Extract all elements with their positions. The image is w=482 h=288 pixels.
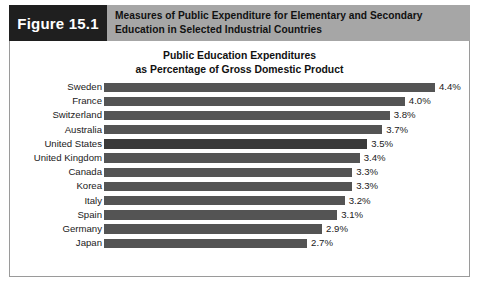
bar-track: 2.9%	[104, 224, 463, 233]
bar-value-label: 3.5%	[371, 138, 393, 150]
bar-value-label: 4.0%	[409, 95, 431, 107]
bar-track: 4.0%	[104, 97, 463, 106]
figure-header-band: Figure 15.1 Measures of Public Expenditu…	[9, 5, 470, 41]
bar-track: 4.4%	[104, 83, 463, 92]
category-label: Australia	[65, 124, 102, 136]
figure-caption-line-1: Measures of Public Expenditure for Eleme…	[115, 9, 464, 23]
bar	[104, 139, 367, 148]
bar-row: United States3.5%	[10, 138, 469, 152]
bar-value-label: 2.9%	[326, 223, 348, 235]
bar-row: Spain3.1%	[10, 209, 469, 223]
bar-track: 3.5%	[104, 139, 463, 148]
bar-row: Switzerland3.8%	[10, 109, 469, 123]
bar-value-label: 2.7%	[311, 237, 333, 249]
bar-track: 3.3%	[104, 182, 463, 191]
bar	[104, 210, 337, 219]
category-label: United States	[44, 138, 102, 150]
bar-track: 3.7%	[104, 125, 463, 134]
bar	[104, 168, 352, 177]
bar-row: Sweden4.4%	[10, 81, 469, 95]
bar-value-label: 3.3%	[356, 180, 378, 192]
bar-row: Italy3.2%	[10, 195, 469, 209]
chart-panel: Public Education Expenditures as Percent…	[9, 41, 470, 277]
category-label: Sweden	[67, 81, 102, 93]
bar-track: 3.8%	[104, 111, 463, 120]
figure-number-label: Figure 15.1	[17, 16, 98, 31]
category-label: France	[72, 95, 102, 107]
chart-title: Public Education Expenditures as Percent…	[10, 49, 469, 76]
bar-row: France4.0%	[10, 95, 469, 109]
bar-value-label: 4.4%	[439, 81, 461, 93]
category-label: Switzerland	[52, 109, 102, 121]
bar-row: Japan2.7%	[10, 237, 469, 251]
figure-caption: Measures of Public Expenditure for Eleme…	[115, 9, 464, 36]
figure-caption-line-2: Education in Selected Industrial Countri…	[115, 23, 464, 37]
category-label: Italy	[84, 195, 102, 207]
category-label: Spain	[77, 209, 102, 221]
bar-track: 3.2%	[104, 196, 463, 205]
bar	[104, 196, 345, 205]
category-label: United Kingdom	[34, 152, 102, 164]
chart-title-line-2: as Percentage of Gross Domestic Product	[10, 63, 469, 77]
category-label: Canada	[68, 166, 102, 178]
bar-row: Australia3.7%	[10, 124, 469, 138]
category-label: Korea	[76, 180, 102, 192]
bar-track: 3.3%	[104, 168, 463, 177]
bar-track: 3.4%	[104, 153, 463, 162]
bar-value-label: 3.4%	[364, 152, 386, 164]
bar	[104, 97, 405, 106]
bar	[104, 239, 307, 248]
bar-value-label: 3.7%	[386, 124, 408, 136]
bar	[104, 224, 322, 233]
category-label: Japan	[76, 237, 102, 249]
figure-container: Figure 15.1 Measures of Public Expenditu…	[0, 0, 482, 288]
bar-value-label: 3.1%	[341, 209, 363, 221]
category-label: Germany	[63, 223, 102, 235]
bar-value-label: 3.8%	[394, 109, 416, 121]
bar	[104, 153, 360, 162]
bar-row: Canada3.3%	[10, 166, 469, 180]
figure-number-badge: Figure 15.1	[9, 5, 107, 41]
bar-value-label: 3.3%	[356, 166, 378, 178]
bar-row: Germany2.9%	[10, 223, 469, 237]
bar-row: United Kingdom3.4%	[10, 152, 469, 166]
chart-title-line-1: Public Education Expenditures	[10, 49, 469, 63]
bar	[104, 125, 382, 134]
bar-track: 2.7%	[104, 239, 463, 248]
bar-row: Korea3.3%	[10, 180, 469, 194]
bar	[104, 111, 390, 120]
bar	[104, 182, 352, 191]
bar-chart-plot-area: Sweden4.4%France4.0%Switzerland3.8%Austr…	[10, 81, 469, 251]
bar-value-label: 3.2%	[349, 195, 371, 207]
bar-track: 3.1%	[104, 210, 463, 219]
bar	[104, 83, 435, 92]
